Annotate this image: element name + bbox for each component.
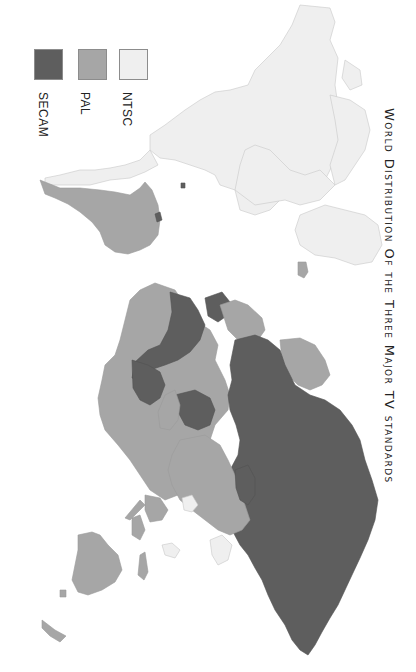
legend-label-ntsc: NTSC bbox=[120, 92, 134, 127]
region-pacific-islands bbox=[138, 552, 148, 580]
region-tasmania bbox=[60, 590, 66, 597]
region-greenland bbox=[295, 205, 382, 265]
region-caribbean bbox=[181, 183, 185, 188]
legend-swatch-pal bbox=[78, 49, 107, 80]
legend-swatch-ntsc bbox=[119, 49, 148, 80]
legend-label-pal: PAL bbox=[78, 92, 92, 115]
legend-swatch-secam bbox=[34, 49, 63, 80]
region-south-america bbox=[40, 180, 160, 254]
legend-label-secam: SECAM bbox=[36, 92, 50, 137]
region-arctic-islands-2 bbox=[342, 60, 362, 90]
region-indonesia-2 bbox=[132, 515, 145, 540]
region-philippines bbox=[162, 543, 180, 558]
map-title: World Distribution Of the Three Major TV… bbox=[382, 108, 397, 484]
region-japan bbox=[210, 535, 232, 565]
legend: SECAM PAL NTSC bbox=[0, 0, 160, 160]
region-new-zealand bbox=[42, 620, 66, 642]
region-iceland bbox=[298, 262, 308, 278]
region-australia bbox=[72, 532, 122, 595]
